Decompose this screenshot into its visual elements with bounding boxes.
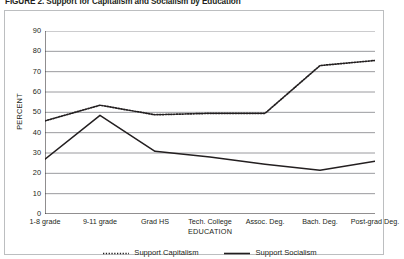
axis-lines (45, 31, 375, 214)
dotted-line-icon (103, 251, 129, 256)
solid-line-icon (224, 251, 250, 256)
series-line (45, 115, 375, 170)
series-line (45, 60, 375, 120)
chart-frame: PERCENT 0102030405060708090 1-8 grade9-1… (4, 10, 384, 255)
y-axis-tick-label: 20 (19, 169, 41, 176)
y-axis-tick-label: 10 (19, 190, 41, 197)
chart-legend: Support CapitalismSupport Socialism (45, 249, 375, 257)
y-axis-tick-label: 70 (19, 68, 41, 75)
legend-label: Support Socialism (255, 249, 316, 257)
figure-title: FIGURE 2. Support for Capitalism and Soc… (5, 0, 241, 6)
data-series (45, 60, 375, 170)
x-axis-tick-label: Post-grad Deg. (340, 218, 404, 226)
plot-area (45, 31, 375, 214)
chart-plot-svg (45, 31, 375, 214)
y-axis-tick-labels: 0102030405060708090 (15, 31, 41, 214)
y-axis-tick-label: 30 (19, 149, 41, 156)
legend-label: Support Capitalism (134, 249, 198, 257)
y-axis-tick-label: 60 (19, 88, 41, 95)
y-axis-tick-label: 50 (19, 108, 41, 115)
x-axis-title: EDUCATION (45, 227, 375, 236)
y-axis-tick-label: 40 (19, 129, 41, 136)
legend-entry[interactable]: Support Socialism (224, 249, 316, 257)
y-axis-tick-label: 80 (19, 47, 41, 54)
y-axis-tick-label: 90 (19, 27, 41, 34)
legend-entry[interactable]: Support Capitalism (103, 249, 198, 257)
